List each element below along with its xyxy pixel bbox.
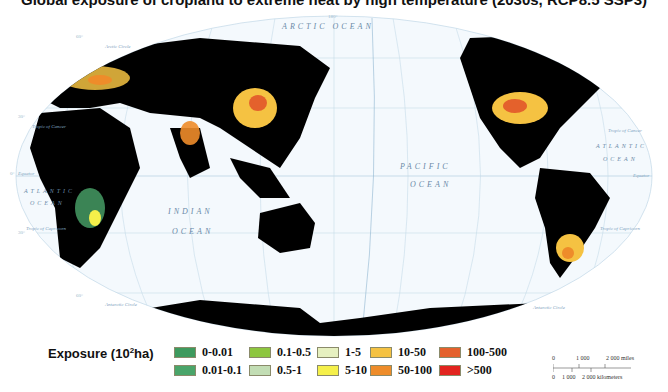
ocean-label-atlantic-east-line2: OCEAN [603,156,638,162]
label-tropic-cancer-east: Tropic of Cancer [608,128,642,133]
label-equator-east: Equator [633,173,649,178]
ocean-label-pacific-line2: OCEAN [410,180,451,189]
legend-item: 0.5-1 [249,363,302,377]
legend-item: 1-5 [317,345,361,359]
label-tropic-capricorn-west: Tropic of Capricorn [26,226,66,231]
top-center-label: 180° [328,14,338,19]
lat-label-60s: 60° [76,293,83,298]
lat-label-60n: 60° [76,34,83,39]
ocean-label-atlantic-east: ATLANTIC [596,143,647,149]
legend-title: Exposure (102ha) [48,346,154,361]
ocean-label-indian: INDIAN [168,207,213,216]
legend-item: 50-100 [370,363,432,377]
lat-label-0: 0° [10,171,15,176]
legend-item: 0-0.01 [174,345,233,359]
lat-label-30n: 30° [18,114,25,119]
ocean-label-atlantic-west-line2: OCEAN [30,200,65,206]
ocean-label-atlantic-west: ATLANTIC [24,188,75,194]
legend-item: 10-50 [370,345,426,359]
ocean-label-arctic: ARCTIC OCEAN [282,22,374,31]
label-antarctic-circle-east: Antarctic Circle [533,305,565,310]
scale-ruler [553,364,633,372]
label-equator-west: Equator [18,171,34,176]
label-antarctic-circle-west: Antarctic Circle [105,302,137,307]
label-tropic-cancer-west: Tropic of Cancer [32,124,66,129]
label-arctic-circle: Arctic Circle [105,44,131,49]
ocean-label-pacific: PACIFIC [400,162,451,171]
legend-item: 100-500 [439,345,507,359]
legend-item: 0.01-0.1 [174,363,242,377]
legend-item: >500 [439,363,492,377]
lat-label-30s: 30° [18,230,25,235]
legend-item: 0.1-0.5 [249,345,311,359]
ocean-label-indian-line2: OCEAN [172,227,213,236]
scale-bar: 0 1 000 2 000 miles 0 1 000 2 000 kilome… [548,348,664,388]
legend-item: 5-10 [317,363,367,377]
map-title: Global exposure of cropland to extreme h… [0,0,668,8]
label-tropic-capricorn-east: Tropic of Capricorn [600,226,640,231]
world-map [0,8,668,340]
